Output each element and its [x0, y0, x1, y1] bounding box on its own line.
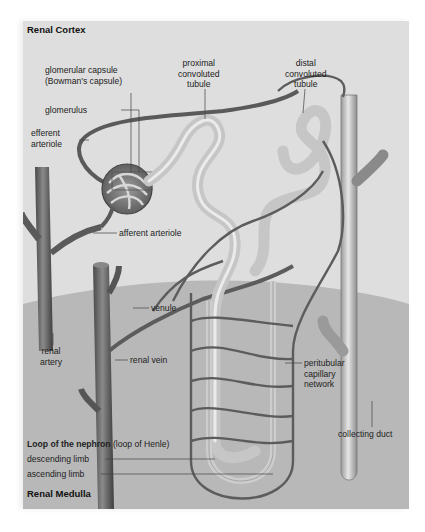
nephron-diagram: Renal Cortex Renal Medulla glomerular ca…: [23, 21, 409, 509]
leader-lines: [23, 21, 409, 509]
